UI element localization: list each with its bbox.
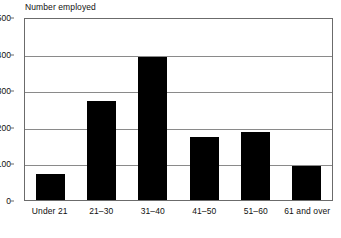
bar: [87, 101, 116, 200]
chart-title: Number employed: [25, 2, 96, 13]
y-tick-mark: [10, 127, 14, 128]
bar: [138, 57, 167, 200]
bar: [292, 166, 321, 200]
bar-slot: [281, 19, 332, 200]
x-tick-label: 61 and over: [282, 205, 334, 219]
bar-slot: [76, 19, 127, 200]
y-tick-mark: [10, 54, 14, 55]
x-axis: Under 2121–3031–4041–5051–6061 and over: [24, 205, 333, 219]
bar-chart-figure: Number employed 0100200300400500 Under 2…: [0, 0, 341, 238]
bar-slot: [25, 19, 76, 200]
bar: [241, 132, 270, 200]
y-tick-mark: [10, 164, 14, 165]
bar-slot: [179, 19, 230, 200]
bars-container: [25, 19, 332, 200]
x-tick-label: 41–50: [179, 205, 231, 219]
x-tick-label: 31–40: [127, 205, 179, 219]
plot-area: [24, 18, 333, 201]
x-tick-label: 51–60: [230, 205, 282, 219]
y-tick-mark: [10, 201, 14, 202]
bar: [190, 137, 219, 200]
bar-slot: [127, 19, 178, 200]
y-tick-mark: [10, 91, 14, 92]
y-axis: 0100200300400500: [0, 0, 22, 238]
x-tick-label: Under 21: [24, 205, 76, 219]
bar-slot: [230, 19, 281, 200]
y-tick-mark: [10, 18, 14, 19]
bar: [36, 174, 65, 200]
x-tick-label: 21–30: [76, 205, 128, 219]
